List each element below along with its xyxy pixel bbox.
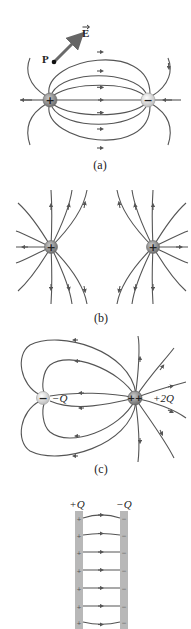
svg-text:−: −: [121, 619, 126, 626]
svg-text:+: +: [76, 619, 81, 626]
svg-text:−: −: [121, 603, 126, 610]
point-p: [52, 60, 57, 65]
plate-label-negative: −Q: [116, 498, 131, 510]
positive-sign-left: +: [46, 241, 55, 254]
field-line: [49, 60, 150, 94]
field-line: [135, 398, 139, 462]
svg-text:−: −: [121, 585, 126, 592]
point-p-label: P: [42, 53, 49, 65]
positive-sign: +: [45, 94, 54, 107]
svg-text:+: +: [76, 603, 81, 610]
svg-text:−: −: [121, 567, 126, 574]
svg-text:+: +: [76, 515, 81, 522]
negative-sign: −: [143, 94, 152, 107]
electric-field-vector: [54, 38, 78, 62]
caption-b: (b): [94, 311, 108, 325]
negative-sign: −: [38, 392, 47, 405]
field-line: [135, 398, 174, 458]
field-line: [135, 336, 139, 398]
field-line: [152, 104, 170, 145]
svg-text:+: +: [76, 532, 81, 539]
positive-sign-right: +: [148, 241, 157, 254]
charge-label-plus-2q: +2Q: [153, 392, 174, 404]
field-line: [49, 106, 150, 140]
svg-text:+: +: [76, 567, 81, 574]
svg-text:+: +: [76, 549, 81, 556]
charge-label-minus-q: −Q: [52, 392, 67, 404]
panel-d-parallel-plates: +Q −Q + + + + + +: [69, 498, 131, 629]
svg-text:−: −: [121, 515, 126, 522]
field-line: [54, 105, 144, 115]
field-line: [21, 401, 136, 456]
svg-text:−: −: [121, 549, 126, 556]
field-line: [152, 58, 170, 96]
panel-b-two-positive: + + (b): [16, 190, 188, 325]
svg-text:+: +: [76, 585, 81, 592]
panel-c-unequal-charges: − −Q ++ +2Q (c): [21, 336, 186, 476]
field-line: [28, 104, 46, 145]
caption-c: (c): [94, 462, 107, 476]
positive-sign: ++: [127, 393, 142, 403]
field-line: [52, 76, 146, 93]
plate-label-positive: +Q: [69, 498, 84, 510]
field-line: [52, 107, 146, 124]
svg-text:−: −: [121, 532, 126, 539]
plate-field-lines: [83, 515, 120, 625]
vector-e-label: E: [82, 27, 89, 39]
field-line: [21, 340, 136, 395]
field-line: [135, 348, 174, 398]
positive-plate-signs: + + + + + + +: [76, 515, 81, 626]
caption-a: (a): [93, 158, 106, 172]
field-line: [54, 85, 144, 95]
electric-field-diagram: P E + − (a): [0, 0, 191, 629]
panel-a-dipole: P E + − (a): [20, 25, 181, 172]
negative-plate-signs: − − − − − − −: [121, 515, 126, 626]
